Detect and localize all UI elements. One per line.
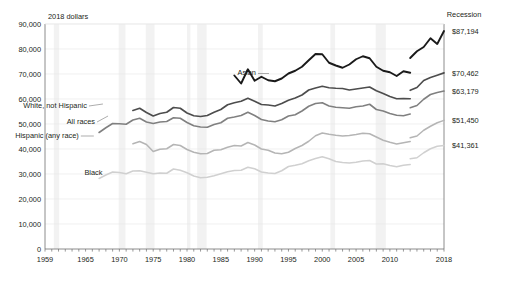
x-axis-tick-label: 1995 (280, 255, 296, 264)
recession-band (146, 24, 155, 249)
x-axis-tick-label: 1990 (246, 255, 262, 264)
series-line-white-not-hispanic-revised (410, 73, 444, 90)
recession-band (258, 24, 263, 249)
y-axis-tick-label: 80,000 (18, 45, 41, 54)
x-axis-tick-label: 2000 (314, 255, 330, 264)
recession-band (376, 24, 386, 249)
series-line-asian-revised (410, 31, 444, 58)
recession-band (187, 24, 190, 249)
x-axis-tick-label: 1980 (179, 255, 195, 264)
y-axis-tick-label: 90,000 (18, 20, 41, 29)
end-value-label-asian: $87,194 (452, 27, 479, 36)
income-by-race-chart: 010,00020,00030,00040,00050,00060,00070,… (0, 0, 527, 281)
y-axis-tick-label: 20,000 (18, 195, 41, 204)
end-value-label-black: $41,361 (452, 141, 479, 150)
recession-annotation-label: Recession (447, 10, 482, 19)
end-value-label-white-not-hispanic: $70,462 (452, 69, 479, 78)
series-label-white-not-hispanic: White, not Hispanic (23, 101, 87, 110)
series-label-asian: Asian (237, 68, 256, 77)
y-axis-tick-label: 10,000 (18, 220, 41, 229)
end-value-label-hispanic-any-race: $51,450 (452, 116, 479, 125)
series-line-black-revised (410, 146, 444, 159)
series-label-all-races: All races (67, 117, 96, 126)
x-axis-tick-label: 1970 (111, 255, 127, 264)
y-axis-tick-label: 40,000 (18, 145, 41, 154)
x-axis-tick-label: 1965 (77, 255, 93, 264)
series-label-hispanic-any-race: Hispanic (any race) (15, 131, 79, 140)
y-axis-tick-label: 50,000 (18, 120, 41, 129)
series-line-all-races (99, 103, 410, 133)
chart-canvas: 010,00020,00030,00040,00050,00060,00070,… (0, 0, 527, 281)
end-value-label-all-races: $63,179 (452, 87, 479, 96)
y-axis-unit-label: 2018 dollars (48, 12, 89, 21)
x-axis-tick-label: 2010 (382, 255, 398, 264)
series-line-hispanic-any-race (133, 133, 410, 154)
series-line-white-not-hispanic (133, 86, 410, 116)
x-axis-tick-label: 1975 (145, 255, 161, 264)
recession-band (330, 24, 335, 249)
series-leader-line (97, 116, 108, 122)
x-axis-tick-label: 2005 (348, 255, 364, 264)
series-line-black (99, 157, 410, 179)
y-axis-tick-label: 30,000 (18, 170, 41, 179)
y-axis-tick-label: 70,000 (18, 70, 41, 79)
x-axis-tick-label: 1959 (37, 255, 53, 264)
series-leader-line (89, 104, 103, 106)
recession-band (119, 24, 126, 249)
series-line-all-races-revised (410, 91, 444, 108)
recession-band (197, 24, 206, 249)
series-line-hispanic-any-race-revised (410, 120, 444, 137)
y-axis-tick-label: 0 (37, 245, 41, 254)
x-axis-tick-label: 1985 (213, 255, 229, 264)
series-label-black: Black (84, 168, 102, 177)
x-axis-tick-label: 2018 (436, 255, 452, 264)
